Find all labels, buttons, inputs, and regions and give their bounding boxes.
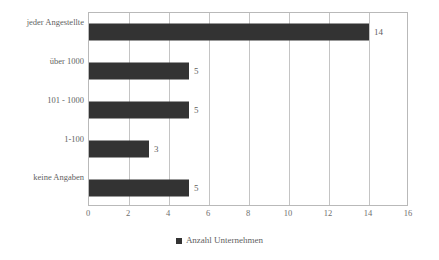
- x-tick-2: 2: [126, 209, 130, 218]
- bar-value-ueber-1000: 5: [194, 67, 199, 76]
- bar-value-1-100: 3: [154, 144, 159, 153]
- bar-chart: keine Angaben 1-100 101 - 1000 über 1000…: [0, 0, 439, 260]
- bar-row: 5: [89, 91, 407, 130]
- x-tick-8: 8: [246, 209, 250, 218]
- bar-value-101-1000: 5: [194, 105, 199, 114]
- bar-ueber-1000[interactable]: [89, 63, 189, 80]
- bar-keine-angaben[interactable]: [89, 179, 189, 196]
- chart-legend: Anzahl Unternehmen: [0, 236, 439, 245]
- bar-row: 3: [89, 129, 407, 168]
- plot-area: 14 5 5 3 5: [88, 12, 408, 206]
- bar-1-100[interactable]: [89, 140, 149, 157]
- y-axis-labels: keine Angaben 1-100 101 - 1000 über 1000…: [0, 12, 84, 206]
- y-axis-label-ueber-1000: über 1000: [0, 57, 84, 66]
- x-tick-10: 10: [284, 209, 293, 218]
- y-axis-label-101-1000: 101 - 1000: [0, 96, 84, 105]
- x-tick-6: 6: [206, 209, 210, 218]
- y-axis-label-1-100: 1-100: [0, 134, 84, 143]
- bar-row: 5: [89, 52, 407, 91]
- x-tick-4: 4: [166, 209, 170, 218]
- y-axis-label-keine-angaben: keine Angaben: [0, 173, 84, 182]
- x-tick-14: 14: [364, 209, 373, 218]
- x-axis-labels: 0 2 4 6 8 10 12 14 16: [88, 209, 408, 223]
- y-axis-label-jeder-angestellte: jeder Angestellte: [0, 18, 84, 27]
- bar-row: 14: [89, 13, 407, 52]
- bar-value-jeder-angestellte: 14: [374, 28, 383, 37]
- x-tick-0: 0: [86, 209, 90, 218]
- bar-101-1000[interactable]: [89, 101, 189, 118]
- x-tick-12: 12: [324, 209, 333, 218]
- x-tick-16: 16: [404, 209, 413, 218]
- legend-swatch-icon: [176, 238, 182, 244]
- bar-row: 5: [89, 168, 407, 207]
- bar-jeder-angestellte[interactable]: [89, 24, 369, 41]
- legend-label-anzahl-unternehmen: Anzahl Unternehmen: [186, 236, 263, 245]
- bar-value-keine-angaben: 5: [194, 183, 199, 192]
